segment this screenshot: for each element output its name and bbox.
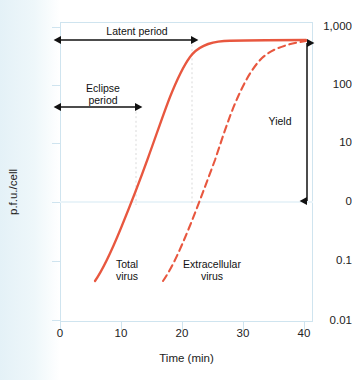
series-curve-extracellular-virus <box>163 41 306 281</box>
chart-vector-overlay <box>0 0 352 380</box>
figure-root: 1,000 100 10 0 0.1 0.01 0 10 20 30 40 p.… <box>0 0 352 380</box>
series-curve-total-virus <box>95 40 306 281</box>
